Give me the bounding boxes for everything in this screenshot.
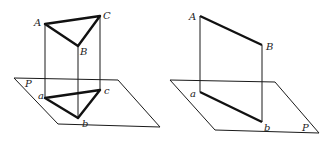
- label-P-left: P: [24, 78, 32, 89]
- label-a-left: a: [38, 90, 44, 101]
- projection-diagram: A C B P a c b A B a b P: [0, 0, 329, 144]
- triangle-ABC: [45, 16, 100, 46]
- segment-ab: [200, 92, 262, 122]
- label-P-right: P: [301, 122, 309, 133]
- label-B-left: B: [79, 46, 87, 57]
- label-c-left: c: [104, 85, 110, 96]
- label-A-left: A: [33, 17, 41, 28]
- label-B-right: B: [265, 41, 273, 52]
- label-a-right: a: [190, 88, 196, 99]
- figure-left-triangle-projection: A C B P a c b: [14, 10, 160, 129]
- figure-right-segment-projection: A B a b P: [170, 11, 319, 133]
- label-A-right: A: [188, 11, 196, 22]
- label-b-left: b: [82, 118, 88, 129]
- segment-AB: [200, 16, 262, 45]
- label-C-left: C: [103, 10, 111, 21]
- triangle-abc: [45, 90, 100, 118]
- label-b-right: b: [264, 122, 270, 133]
